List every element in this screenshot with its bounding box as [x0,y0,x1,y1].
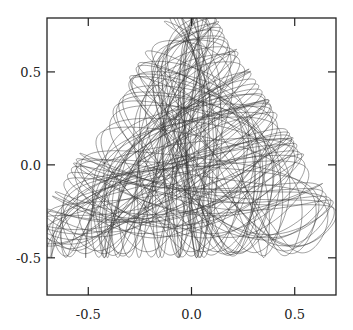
plot-area [25,0,336,258]
x-tick-label: -0.5 [76,307,101,322]
y-tick-label: 0.0 [20,158,41,173]
y-tick-label: -0.5 [16,251,41,266]
orbit-line [25,0,336,258]
x-tick-label: 0.5 [284,307,305,322]
x-tick-label: 0.0 [181,307,202,322]
chart: -0.50.00.5 -0.50.00.5 [0,0,353,330]
y-tick-label: 0.5 [20,65,41,80]
